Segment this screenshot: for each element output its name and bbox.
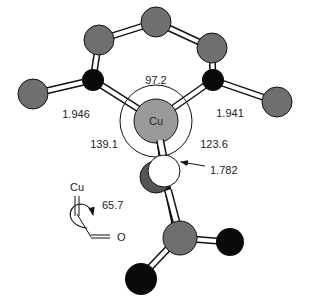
- carbon-atom: [84, 25, 114, 55]
- nitrogen-atom: [82, 69, 104, 91]
- angle-n-cu-n: 97.2: [145, 74, 166, 86]
- nitrogen-atom: [202, 69, 224, 91]
- copper-label: Cu: [149, 115, 163, 127]
- inset-o-label: O: [117, 231, 126, 243]
- torsion-angle-label: 65.7: [102, 199, 123, 211]
- pointer-arrow: [181, 162, 205, 166]
- molecule-diagram: Cu 97.2 1.946 1.941 139.1 123.6 1.782 Cu…: [0, 0, 309, 297]
- carbon-atom: [141, 7, 171, 37]
- methyl-carbon-atom: [18, 79, 48, 109]
- inset-cu-label: Cu: [70, 181, 84, 193]
- distance-cu-n-right: 1.941: [216, 107, 244, 119]
- carboxyl-carbon-atom: [163, 221, 197, 255]
- angle-n-left-cu-o: 139.1: [90, 138, 118, 150]
- angle-n-right-cu-o: 123.6: [200, 138, 228, 150]
- oxygen-atom-dark: [125, 263, 157, 295]
- torsion-inset: Cu O 65.7: [70, 181, 126, 243]
- distance-cu-o: 1.782: [210, 164, 238, 176]
- distance-cu-n-left: 1.946: [62, 108, 90, 120]
- oxygen-atom: [148, 155, 180, 187]
- oxygen-atom-dark: [216, 228, 244, 256]
- methyl-carbon-atom: [262, 87, 292, 117]
- carbon-atom: [197, 33, 227, 63]
